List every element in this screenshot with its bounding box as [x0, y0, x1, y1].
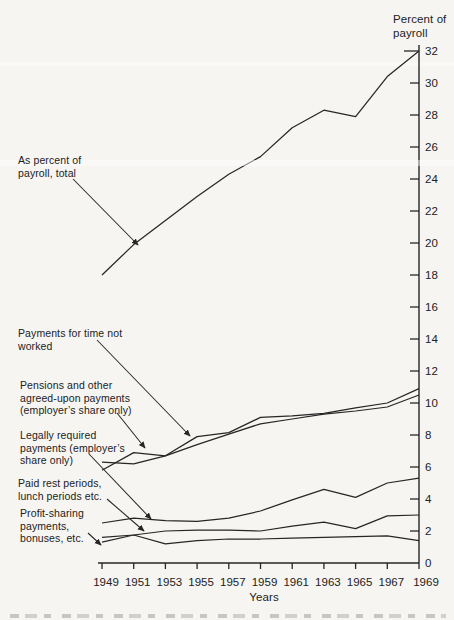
series-time_not_worked	[102, 389, 419, 464]
y-tick-label: 30	[425, 77, 438, 89]
y-tick-label: 26	[425, 141, 438, 153]
x-tick-label: 1967	[379, 576, 405, 588]
y-tick-label: 32	[425, 45, 438, 57]
x-tick-label: 1951	[125, 576, 151, 588]
y-axis-unit-label: Percent of payroll	[393, 13, 446, 40]
cropped-caption-remnant	[10, 614, 446, 618]
annotation-arrow-profit_sharing	[88, 533, 101, 545]
y-tick-label: 24	[425, 173, 438, 185]
y-tick-label: 8	[425, 429, 431, 441]
x-tick-label: 1963	[315, 576, 341, 588]
y-tick-label: 18	[425, 269, 438, 281]
y-tick-label: 12	[425, 365, 438, 377]
y-tick-label: 2	[425, 525, 431, 537]
y-tick-label: 16	[425, 301, 438, 313]
annotation-time-not-worked: Payments for time not worked	[18, 327, 122, 352]
series-legally_required	[102, 478, 419, 523]
x-tick-label: 1961	[283, 576, 309, 588]
x-tick-label: 1965	[347, 576, 373, 588]
series-profit_sharing	[102, 535, 419, 544]
series-paid_rest	[102, 515, 419, 537]
x-tick-label: 1955	[188, 576, 214, 588]
y-tick-label: 28	[425, 109, 438, 121]
annotation-total-payroll: As percent of payroll, total	[18, 154, 81, 179]
y-tick-label: 20	[425, 237, 438, 249]
annotation-arrow-total	[73, 179, 138, 245]
y-tick-label: 4	[425, 493, 432, 505]
x-tick-label: 1957	[220, 576, 246, 588]
y-tick-label: 14	[425, 333, 438, 345]
x-tick-label: 1959	[252, 576, 278, 588]
x-axis-title: Years	[238, 591, 290, 604]
x-tick-label: 1953	[157, 576, 183, 588]
annotation-legally-required: Legally required payments (employer’s sh…	[20, 429, 125, 467]
series-pensions	[102, 395, 419, 470]
y-tick-label: 6	[425, 461, 431, 473]
annotation-pensions: Pensions and other agreed-upon payments …	[20, 379, 132, 417]
x-tick-label: 1949	[93, 576, 119, 588]
series-total	[102, 51, 419, 275]
y-tick-label: 10	[425, 397, 438, 409]
x-tick-label: 1969	[413, 576, 439, 588]
annotation-paid-rest-periods: Paid rest periods, lunch periods etc.	[18, 477, 102, 502]
annotation-profit-sharing: Profit-sharing payments, bonuses, etc.	[20, 507, 84, 545]
y-tick-label: 0	[425, 557, 431, 569]
y-tick-label: 22	[425, 205, 438, 217]
annotation-arrow-paid_rest	[107, 499, 144, 531]
